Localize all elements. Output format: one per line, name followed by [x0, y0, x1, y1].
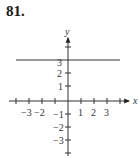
x-tick-label: −3	[21, 107, 32, 118]
y-tick-label: 3	[57, 57, 62, 68]
x-tick-label: 3	[104, 107, 109, 118]
coordinate-plane: y x −3 −2 1 2 3 3 2 1 −1 −2 −3	[0, 0, 138, 156]
y-tick-label: 2	[57, 68, 62, 79]
y-tick-label: −1	[53, 109, 64, 120]
y-tick-label: −3	[53, 135, 64, 146]
x-tick-label: −2	[34, 107, 45, 118]
x-axis-label: x	[132, 95, 138, 106]
y-tick-label: 1	[58, 81, 63, 92]
x-tick-label: 2	[91, 107, 96, 118]
x-tick-label: 1	[78, 107, 83, 118]
y-tick-label: −2	[53, 122, 64, 133]
y-axis-label: y	[64, 26, 70, 37]
